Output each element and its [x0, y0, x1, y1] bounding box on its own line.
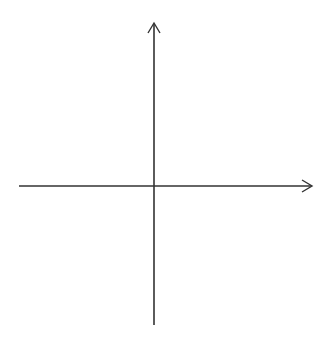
coordinate-plane	[0, 0, 330, 343]
axes	[19, 23, 312, 325]
